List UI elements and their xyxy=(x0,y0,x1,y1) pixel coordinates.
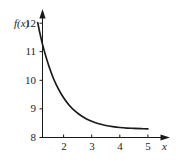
x-tick-label-3: 3 xyxy=(83,141,101,152)
x-tick-label-4: 4 xyxy=(111,141,129,152)
figure-container: f(x) x 12 11 10 9 8 2 3 4 5 xyxy=(0,0,176,161)
y-axis-arrow-icon xyxy=(39,9,45,19)
y-tick-label-12: 12 xyxy=(18,18,36,29)
x-axis-title: x xyxy=(162,141,167,152)
y-tick-label-9: 9 xyxy=(18,103,36,114)
x-tick-label-5: 5 xyxy=(139,141,157,152)
y-tick-label-8: 8 xyxy=(18,132,36,143)
y-tick-label-11: 11 xyxy=(18,46,36,57)
data-curve-f-of-x xyxy=(38,23,148,129)
y-tick-label-10: 10 xyxy=(18,75,36,86)
x-tick-label-2: 2 xyxy=(55,141,73,152)
